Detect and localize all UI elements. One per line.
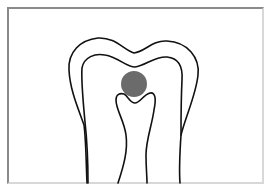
tooth-diagram [0,0,272,190]
pulp-canal-outline [116,93,155,183]
marker-circle [121,71,147,97]
